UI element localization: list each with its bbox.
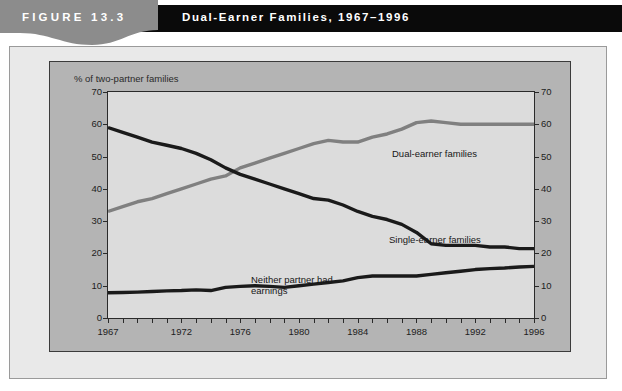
- y-tick-label-right: 70: [541, 86, 563, 97]
- figure-page: Dual-Earner Families, 1967–1996 FIGURE 1…: [0, 0, 622, 391]
- x-tick-mark: [461, 318, 462, 323]
- x-tick-label: 1992: [455, 326, 495, 337]
- x-tick-mark: [372, 318, 373, 323]
- y-tick-mark-left: [103, 286, 107, 287]
- y-tick-mark-left: [103, 124, 107, 125]
- y-tick-label-left: 70: [80, 86, 102, 97]
- y-tick-label-right: 40: [541, 183, 563, 194]
- x-tick-mark: [181, 318, 182, 323]
- x-tick-mark: [137, 318, 138, 323]
- x-tick-mark: [284, 318, 285, 323]
- y-tick-label-right: 30: [541, 215, 563, 226]
- figure-title: Dual-Earner Families, 1967–1996: [182, 11, 410, 23]
- x-tick-mark: [196, 318, 197, 323]
- x-tick-label: 1976: [220, 326, 260, 337]
- x-tick-mark: [402, 318, 403, 323]
- x-tick-mark: [416, 318, 417, 323]
- x-tick-label: 1988: [396, 326, 436, 337]
- x-tick-mark: [167, 318, 168, 323]
- y-tick-label-left: 0: [80, 312, 102, 323]
- y-tick-label-right: 60: [541, 118, 563, 129]
- x-tick-mark: [211, 318, 212, 323]
- y-axis-title: % of two-partner families: [74, 73, 179, 84]
- x-tick-label: 1984: [338, 326, 378, 337]
- y-tick-mark-left: [103, 92, 107, 93]
- x-tick-mark: [270, 318, 271, 323]
- x-tick-mark: [226, 318, 227, 323]
- x-tick-label: 1972: [161, 326, 201, 337]
- x-tick-mark: [255, 318, 256, 323]
- x-tick-mark: [475, 318, 476, 323]
- y-tick-mark-left: [103, 189, 107, 190]
- y-tick-label-right: 0: [541, 312, 563, 323]
- x-tick-mark: [534, 318, 535, 323]
- y-tick-label-right: 20: [541, 247, 563, 258]
- y-tick-label-right: 10: [541, 280, 563, 291]
- y-tick-mark-left: [103, 221, 107, 222]
- x-tick-mark: [431, 318, 432, 323]
- x-tick-mark: [446, 318, 447, 323]
- x-tick-mark: [328, 318, 329, 323]
- x-tick-mark: [519, 318, 520, 323]
- dual-earner-label: Dual-earner families: [392, 148, 477, 159]
- y-tick-label-left: 20: [80, 247, 102, 258]
- x-tick-label: 1996: [514, 326, 554, 337]
- y-tick-mark-right: [535, 286, 539, 287]
- x-tick-label: 1980: [279, 326, 319, 337]
- x-tick-mark: [240, 318, 241, 323]
- y-tick-mark-right: [535, 221, 539, 222]
- x-tick-mark: [108, 318, 109, 323]
- neither-partner-label-line1: Neither partner had: [251, 274, 333, 285]
- y-tick-label-left: 60: [80, 118, 102, 129]
- y-tick-mark-right: [535, 92, 539, 93]
- x-tick-mark: [387, 318, 388, 323]
- neither-partner-label-line2: earnings: [251, 285, 287, 296]
- y-tick-mark-right: [535, 124, 539, 125]
- y-tick-label-left: 30: [80, 215, 102, 226]
- x-tick-mark: [314, 318, 315, 323]
- x-tick-mark: [490, 318, 491, 323]
- y-tick-label-left: 50: [80, 151, 102, 162]
- y-tick-mark-right: [535, 189, 539, 190]
- figure-body-panel: % of two-partner families 01020304050607…: [9, 46, 607, 379]
- y-tick-mark-right: [535, 318, 539, 319]
- y-tick-label-right: 50: [541, 151, 563, 162]
- y-tick-mark-left: [103, 157, 107, 158]
- single-earner-label: Single-earner families: [389, 234, 481, 245]
- x-tick-mark: [152, 318, 153, 323]
- y-tick-label-left: 40: [80, 183, 102, 194]
- figure-number-label: FIGURE 13.3: [22, 11, 126, 23]
- chart-panel: % of two-partner families 01020304050607…: [49, 61, 571, 352]
- x-tick-mark: [299, 318, 300, 323]
- y-tick-mark-right: [535, 253, 539, 254]
- x-tick-mark: [123, 318, 124, 323]
- x-tick-label: 1967: [88, 326, 128, 337]
- series-line-1: [108, 128, 534, 249]
- y-tick-label-left: 10: [80, 280, 102, 291]
- x-tick-mark: [505, 318, 506, 323]
- x-tick-mark: [358, 318, 359, 323]
- x-tick-mark: [343, 318, 344, 323]
- y-tick-mark-right: [535, 157, 539, 158]
- y-tick-mark-left: [103, 318, 107, 319]
- y-tick-mark-left: [103, 253, 107, 254]
- figure-number-banner: [0, 0, 158, 46]
